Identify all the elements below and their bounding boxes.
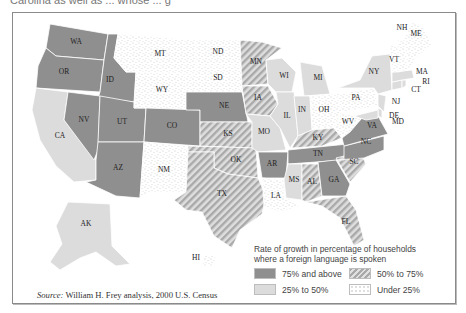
state-ny[interactable] [338,54,392,94]
state-label-va: VA [367,121,377,130]
source-caption: Source: William H. Frey analysis, 2000 U… [37,290,217,300]
state-label-in: IN [298,105,306,114]
state-ak[interactable] [50,202,130,270]
state-label-ut: UT [117,117,127,126]
state-label-pa: PA [352,93,361,102]
legend-item-75-and-above: 75% and above [254,268,349,279]
swatch-stippled [349,284,371,295]
state-label-ri: RI [422,77,430,86]
states-layer [32,22,432,270]
state-label-nc: NC [361,137,371,146]
state-label-az: AZ [113,163,123,172]
state-label-mi: MI [313,73,323,82]
swatch-hatched [349,268,371,279]
legend-title-line-2: where a foreign language is spoken [254,254,454,264]
state-label-tx: TX [217,189,228,198]
state-label-mt: MT [154,49,166,58]
swatch-solid-light [254,284,276,295]
state-label-fl: FL [342,217,351,226]
legend-label: 25% to 50% [282,285,328,295]
state-label-nv: NV [79,115,90,124]
state-label-sc: SC [349,157,358,166]
legend-label: 75% and above [282,269,342,279]
state-label-mo: MO [258,127,271,136]
state-label-la: LA [271,191,282,200]
state-hi[interactable] [202,254,216,266]
state-label-il: IL [283,111,290,120]
state-label-ne: NE [219,101,229,110]
state-label-ca: CA [55,131,66,140]
state-label-ky: KY [313,133,324,142]
legend-label: 50% to 75% [377,269,423,279]
state-label-ar: AR [267,159,277,168]
source-text: William H. Frey analysis, 2000 U.S. Cens… [65,290,217,300]
state-label-vt: VT [389,55,399,64]
legend-item-25-to-50: 25% to 50% [254,284,349,295]
state-label-nh: NH [397,23,408,32]
state-label-nm: NM [158,165,170,174]
state-fl[interactable] [306,196,364,246]
state-label-tn: TN [313,149,324,158]
state-label-ia: IA [254,93,262,102]
state-label-ga: GA [329,175,340,184]
map-legend: Rate of growth in percentage of househol… [254,244,454,295]
legend-item-under-25: Under 25% [349,284,449,295]
state-label-co: CO [167,121,178,130]
state-label-al: AL [307,177,317,186]
legend-title-line-1: Rate of growth in percentage of househol… [254,244,454,254]
state-label-wy: WY [156,85,169,94]
state-label-ct: CT [411,85,421,94]
swatch-solid-dark [254,268,276,279]
state-label-ny: NY [369,67,380,76]
state-label-wi: WI [279,71,289,80]
state-label-nd: ND [213,47,224,56]
legend-item-50-to-75: 50% to 75% [349,268,449,279]
state-label-or: OR [59,67,69,76]
state-label-md: MD [392,117,405,126]
state-label-nj: NJ [392,97,400,106]
state-label-wv: WV [342,117,355,126]
state-label-ms: MS [289,175,300,184]
state-label-sd: SD [213,73,223,82]
state-de[interactable] [378,108,382,118]
state-label-id: ID [106,75,114,84]
state-label-ok: OK [231,155,242,164]
state-label-wa: WA [70,37,82,46]
source-prefix: Source: [37,290,63,300]
state-label-ak: AK [81,219,92,228]
state-label-mn: MN [250,57,263,66]
state-label-me: ME [410,29,422,38]
state-label-hi: HI [192,253,200,262]
legend-label: Under 25% [377,285,420,295]
state-label-ks: KS [223,129,233,138]
state-ri[interactable] [402,80,406,88]
state-label-ma: MA [416,67,429,76]
state-label-oh: OH [319,105,330,114]
